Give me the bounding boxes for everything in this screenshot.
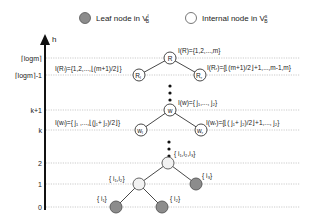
node-i12 xyxy=(133,178,145,190)
annotation-w: I(w)={ j₁,..., j₂} xyxy=(178,99,218,107)
node-Rl: Rl xyxy=(133,69,145,81)
legend-leaf-label: Leaf node in VlB xyxy=(96,13,150,24)
annotation-Rl: I(Rₗ)={1,2,...,⌊(m+1)/2⌋} xyxy=(55,65,122,73)
annotation-i3: { i₃} xyxy=(202,172,213,180)
level-label-k: k xyxy=(39,127,43,134)
ellipsis-dots xyxy=(167,84,171,157)
tree-diagram: h ⌈logm⌉ ⌈logm⌉-1 k+1 k 2 1 0 Leaf node … xyxy=(0,0,318,224)
annotation-i12: { i₁,i₂} xyxy=(109,175,125,183)
level-label-logm-minus-1: ⌈logm⌉-1 xyxy=(15,72,43,80)
svg-text:wl: wl xyxy=(136,127,143,135)
leaf-node-icon xyxy=(80,13,91,24)
internal-node-icon xyxy=(186,13,197,24)
annotation-i2: { i₂} xyxy=(170,195,181,203)
annotation-i123: { i₁,i₂,i₃} xyxy=(174,150,196,158)
svg-text:w: w xyxy=(167,107,173,114)
arrow-up-icon xyxy=(40,34,50,45)
axis-label-h: h xyxy=(52,35,56,44)
node-wl: wl xyxy=(135,124,147,136)
node-R: R xyxy=(164,52,176,64)
level-gridlines xyxy=(46,58,300,207)
node-Rr: Rr xyxy=(194,69,206,81)
level-label-0: 0 xyxy=(38,204,42,211)
node-w: w xyxy=(164,104,176,116)
tree-edges xyxy=(116,58,201,207)
node-i123 xyxy=(162,157,174,169)
annotation-wr: I(wᵣ)={⌊( j₁+ j₂)/2⌋+1,..., j₂} xyxy=(206,119,280,127)
annotation-wl: I(wₗ)={ j₁ ,...,⌊(j₁+ j₂)/2⌋} xyxy=(55,119,121,127)
level-label-2: 2 xyxy=(38,160,42,167)
node-i2 xyxy=(156,201,168,213)
level-label-k-plus-1: k+1 xyxy=(31,107,43,114)
legend-internal-label: Internal node in VsB xyxy=(202,13,268,24)
node-i1 xyxy=(110,201,122,213)
annotation-Rr: I(Rᵣ)={⌊(m+1)/2⌋+1,...,m-1,m} xyxy=(207,64,292,72)
svg-text:R: R xyxy=(168,55,173,62)
annotation-i1: { i₁} xyxy=(97,195,108,203)
annotation-R: I(R)={1,2,...,m} xyxy=(178,47,221,55)
legend: Leaf node in VlB Internal node in VsB xyxy=(80,13,269,25)
level-label-1: 1 xyxy=(38,181,42,188)
node-i3 xyxy=(190,178,202,190)
level-label-logm: ⌈logm⌉ xyxy=(21,55,42,63)
